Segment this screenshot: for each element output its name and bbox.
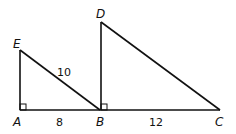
measure-ab: 8 [56,116,63,129]
label-d: D [96,7,105,21]
measure-bc: 12 [149,116,163,129]
geometry-diagram: E D A B C 10 8 12 [0,0,236,134]
right-angle-marker-a [20,104,26,110]
label-b: B [96,115,104,129]
measure-eb: 10 [57,66,71,79]
label-e: E [13,37,21,51]
label-a: A [12,115,21,129]
segment-dc [101,22,220,110]
segment-eb [20,50,100,110]
right-angle-marker-b [101,104,107,110]
label-c: C [215,115,224,129]
